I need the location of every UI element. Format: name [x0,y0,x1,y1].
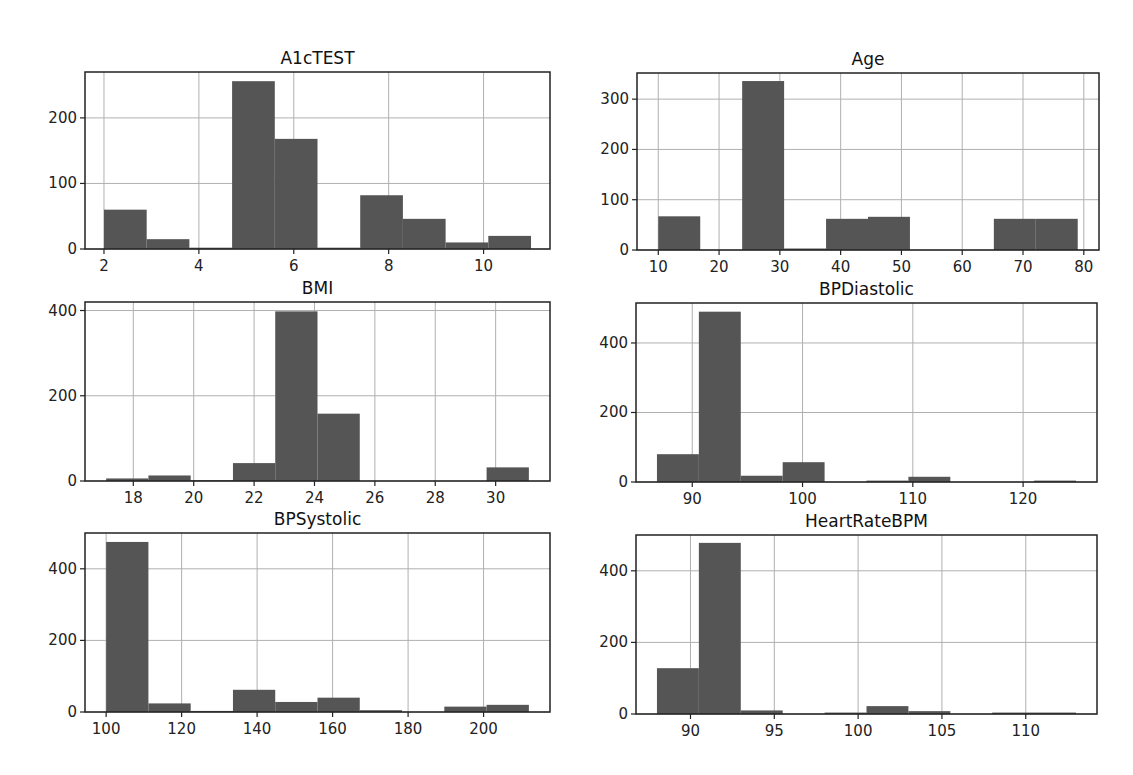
y-tick-label: 300 [600,90,629,108]
subplot-title: BPDiastolic [819,279,914,299]
histogram-bar [1036,219,1078,250]
x-tick-label: 70 [1013,258,1032,276]
histogram-bar [147,239,190,249]
histogram-bar [106,542,148,712]
histogram-bar [318,698,360,712]
x-tick-label: 160 [318,720,347,738]
histogram-bar [360,195,403,249]
histogram-bar [742,81,784,250]
x-tick-label: 110 [899,490,928,508]
histogram-figure: 2468100100200A1cTEST 1020304050607080010… [0,0,1133,775]
histogram-bar [488,236,531,249]
y-tick-label: 0 [618,705,628,723]
y-tick-label: 0 [67,703,77,721]
x-tick-label: 140 [243,720,272,738]
x-tick-label: 90 [681,722,700,740]
histogram-bar [148,703,190,712]
figure-background [0,0,1133,775]
histogram-bar [148,475,190,481]
x-tick-label: 180 [394,720,423,738]
histogram-bar [908,477,950,482]
x-tick-label: 200 [469,720,498,738]
histogram-bar [233,690,275,712]
x-tick-label: 22 [245,489,264,507]
y-tick-label: 0 [67,240,77,258]
y-tick-label: 400 [599,334,628,352]
y-tick-label: 0 [619,241,629,259]
x-tick-label: 30 [770,258,789,276]
histogram-bar [275,702,317,712]
histogram-bar [446,242,489,249]
y-tick-label: 400 [48,302,77,320]
y-tick-label: 200 [599,633,628,651]
y-tick-label: 200 [48,631,77,649]
x-tick-label: 95 [765,722,784,740]
x-tick-label: 26 [365,489,384,507]
y-tick-label: 200 [48,387,77,405]
subplot-title: A1cTEST [280,48,355,68]
x-tick-label: 105 [928,722,957,740]
x-tick-label: 2 [99,257,109,275]
subplot-title: BPSystolic [274,509,361,529]
x-tick-label: 10 [649,258,668,276]
x-tick-label: 4 [194,257,204,275]
x-tick-label: 10 [474,257,493,275]
histogram-bar [657,454,699,482]
histogram-bar [275,311,317,481]
y-tick-label: 0 [618,473,628,491]
histogram-bar [487,705,529,712]
x-tick-label: 24 [305,489,324,507]
x-tick-label: 6 [289,257,299,275]
x-tick-label: 28 [426,489,445,507]
histogram-bar [233,463,275,481]
y-tick-label: 400 [599,562,628,580]
y-tick-label: 400 [48,560,77,578]
x-tick-label: 8 [384,257,394,275]
histogram-bar [826,219,868,250]
y-tick-label: 200 [599,403,628,421]
histogram-bar [487,467,529,481]
subplot-title: Age [852,49,885,69]
histogram-bar [657,668,699,714]
x-tick-label: 120 [1009,490,1038,508]
histogram-bar [699,312,741,482]
subplot-title: BMI [302,278,333,298]
y-tick-label: 0 [67,472,77,490]
histogram-bar [104,210,147,249]
histogram-bar [318,414,360,481]
histogram-bar [699,543,741,714]
x-tick-label: 20 [184,489,203,507]
subplot-title: HeartRateBPM [805,511,928,531]
histogram-bar [275,139,318,249]
y-tick-label: 200 [600,140,629,158]
x-tick-label: 30 [486,489,505,507]
x-tick-label: 110 [1011,722,1040,740]
x-tick-label: 100 [844,722,873,740]
x-tick-label: 90 [683,490,702,508]
y-tick-label: 100 [600,191,629,209]
y-tick-label: 200 [48,109,77,127]
x-tick-label: 40 [831,258,850,276]
histogram-bar [658,216,700,250]
x-tick-label: 18 [124,489,143,507]
x-tick-label: 100 [92,720,121,738]
x-tick-label: 80 [1074,258,1093,276]
x-tick-label: 100 [788,490,817,508]
x-tick-label: 120 [167,720,196,738]
x-tick-label: 50 [892,258,911,276]
histogram-bar [232,81,275,249]
histogram-bar [994,219,1036,250]
x-tick-label: 60 [953,258,972,276]
histogram-bar [444,707,486,712]
histogram-bar [867,706,909,714]
histogram-bar [741,476,783,482]
y-tick-label: 100 [48,174,77,192]
x-tick-label: 20 [710,258,729,276]
histogram-bar [403,219,446,249]
histogram-bar [868,217,910,250]
histogram-bar [783,462,825,482]
